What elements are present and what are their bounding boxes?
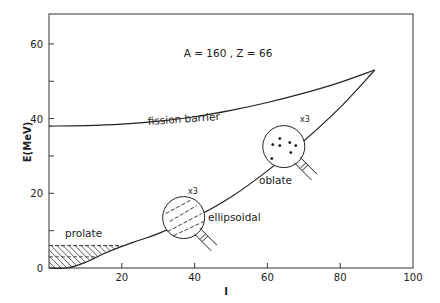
x-axis-label: I [224, 286, 228, 297]
x-tick-label: 80 [334, 272, 347, 283]
y-tick-label: 0 [37, 263, 43, 274]
y-axis-label: E(MeV) [22, 122, 33, 162]
x-tick-label: 20 [115, 272, 128, 283]
oblate-magnifier [263, 126, 317, 180]
hatch-line [123, 246, 145, 268]
magnified-dot [288, 141, 291, 144]
hatch-line [165, 246, 187, 268]
x-tick-label: 100 [403, 272, 422, 283]
magnifier-lens [263, 126, 305, 168]
prolate-label: prolate [65, 227, 102, 239]
magnified-dot [289, 151, 292, 154]
y-axis: 0204060 [30, 39, 54, 274]
magnifier-lens [163, 197, 205, 239]
hatch-line [129, 246, 151, 268]
magnified-dot [271, 143, 274, 146]
magnified-dot [278, 137, 281, 140]
hatch-line [153, 246, 175, 268]
oblate-label: oblate [259, 174, 292, 186]
magnified-dot [270, 157, 273, 160]
fission-barrier-label: fission barrier [147, 110, 220, 127]
hatch-line [135, 246, 157, 268]
hatch-line [99, 246, 121, 268]
y-tick-label: 20 [30, 188, 43, 199]
x-tick-label: 40 [188, 272, 201, 283]
hatch-line [159, 246, 181, 268]
magnifiers [163, 126, 317, 251]
oblate-magnification-label: x3 [300, 115, 310, 124]
chart: 20406080100 0204060 A = 160 , Z = 66 I E… [0, 0, 440, 303]
hatch-line [15, 246, 37, 268]
magnified-dot [294, 144, 297, 147]
ellipsoidal-magnification-label: x3 [188, 187, 198, 196]
y-tick-label: 60 [30, 39, 43, 50]
x-axis: 20406080100 [115, 263, 422, 283]
hatch-line [141, 246, 163, 268]
hatch-line [147, 246, 169, 268]
magnified-dot [278, 144, 281, 147]
hatch-line [9, 246, 31, 268]
ellipsoidal-magnifier [163, 197, 217, 251]
x-tick-label: 60 [261, 272, 274, 283]
chart-title: A = 160 , Z = 66 [184, 47, 273, 59]
hatch-line [117, 246, 139, 268]
ellipsoidal-label: ellipsoidal [208, 211, 261, 223]
